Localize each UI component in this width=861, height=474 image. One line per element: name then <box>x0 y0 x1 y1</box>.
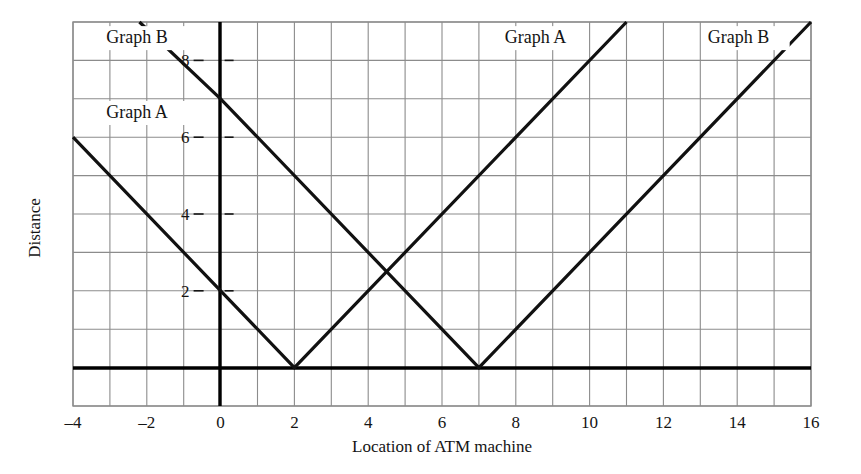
atm-distance-chart: 2468 –4–20246810121416 Graph BGraph AGra… <box>0 0 861 474</box>
x-axis-title: Location of ATM machine <box>352 437 532 456</box>
x-tick-label: 6 <box>438 413 447 432</box>
x-tick-label: 2 <box>290 413 299 432</box>
series-annotation: Graph A <box>106 102 167 122</box>
x-tick-label: –4 <box>64 413 83 432</box>
y-tick-label: 2 <box>181 282 190 301</box>
x-tick-label: 10 <box>581 413 598 432</box>
x-tick-group: –4–20246810121416 <box>64 413 820 432</box>
x-tick-label: 4 <box>364 413 373 432</box>
y-axis-title: Distance <box>25 198 44 257</box>
series-annotation: Graph B <box>708 27 770 47</box>
y-tick-label: 8 <box>181 51 190 70</box>
x-tick-label: –2 <box>137 413 155 432</box>
x-tick-label: 16 <box>803 413 820 432</box>
x-tick-label: 12 <box>655 413 672 432</box>
chart-root: 2468 –4–20246810121416 Graph BGraph AGra… <box>0 0 861 474</box>
y-tick-label: 4 <box>181 205 190 224</box>
series-annotation: Graph B <box>106 27 167 47</box>
x-tick-label: 8 <box>512 413 521 432</box>
y-tick-label: 6 <box>181 128 190 147</box>
x-tick-label: 0 <box>216 413 225 432</box>
x-tick-label: 14 <box>729 413 747 432</box>
series-annotation: Graph A <box>505 27 566 47</box>
